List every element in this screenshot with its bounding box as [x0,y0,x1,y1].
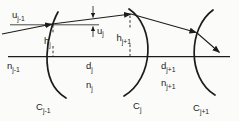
label-c-j: Cj [133,100,142,114]
ray-trace-diagram: uj-1 uj hj hj+1 nj-1 dj nj dj+1 nj+1 Cj-… [0,0,239,121]
label-d-j-plus-1: dj+1 [161,60,176,74]
label-c-j-1: Cj-1 [36,101,51,115]
label-n-j-1: nj-1 [7,60,20,74]
label-n-j: nj [86,79,93,93]
label-n-j-plus-1: nj+1 [161,77,176,91]
label-u-j-1: uj-1 [12,9,25,23]
label-h-j-plus-1: hj+1 [117,32,132,46]
label-c-j-plus-1: Cj+1 [193,102,209,116]
optics-ray-trace-figure: uj-1 uj hj hj+1 nj-1 dj nj dj+1 nj+1 Cj-… [0,0,239,121]
ray-segment-medium-j [52,14,131,24]
ray-segment-exit [197,33,220,53]
surface-arc-c-j [124,9,148,96]
surface-arc-c-j-plus-1 [194,10,215,95]
label-u-j: uj [97,25,104,39]
ray-segment-incoming [2,24,52,34]
label-d-j: dj [86,60,93,74]
